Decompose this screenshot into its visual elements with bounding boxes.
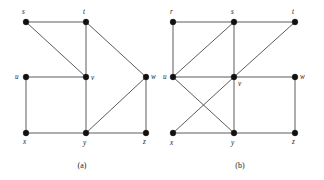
vertex-y xyxy=(231,130,237,136)
vertex-label-s: s xyxy=(231,8,234,16)
vertex-label-w: w xyxy=(151,73,156,81)
vertex-v xyxy=(83,74,89,80)
graph-a-vertices: stuvwxyz xyxy=(15,8,156,147)
vertex-u xyxy=(170,74,176,80)
graph-b: rstuvwxyz(b) xyxy=(163,8,305,170)
graph-a: stuvwxyz(a) xyxy=(15,8,156,170)
vertex-r xyxy=(170,19,176,25)
edge-s-v xyxy=(26,22,86,77)
vertex-t xyxy=(83,19,89,25)
vertex-y xyxy=(83,130,89,136)
vertex-label-x: x xyxy=(169,139,174,147)
vertex-label-u: u xyxy=(15,73,19,81)
vertex-w xyxy=(143,74,149,80)
vertex-x xyxy=(23,130,29,136)
vertex-label-x: x xyxy=(22,138,27,146)
vertex-label-y: y xyxy=(230,139,235,147)
figure-canvas: stuvwxyz(a)rstuvwxyz(b) xyxy=(0,0,324,180)
graph-a-caption: (a) xyxy=(78,161,87,170)
vertex-z xyxy=(292,130,298,136)
vertex-label-t: t xyxy=(292,8,295,16)
vertex-label-z: z xyxy=(142,138,146,146)
vertex-w xyxy=(292,74,298,80)
edge-t-v xyxy=(234,22,295,77)
vertex-s xyxy=(231,19,237,25)
vertex-v xyxy=(231,74,237,80)
vertex-label-y: y xyxy=(82,139,87,147)
edge-t-w xyxy=(86,22,146,77)
vertex-label-u: u xyxy=(163,73,167,81)
vertex-s xyxy=(23,19,29,25)
vertex-label-s: s xyxy=(22,8,25,16)
vertex-label-v: v xyxy=(91,74,95,82)
vertex-label-w: w xyxy=(300,73,305,81)
vertex-label-v: v xyxy=(238,80,242,88)
graph-b-caption: (b) xyxy=(235,161,245,170)
vertex-z xyxy=(143,130,149,136)
vertex-u xyxy=(23,74,29,80)
vertex-label-r: r xyxy=(170,8,173,16)
edge-s-u xyxy=(173,22,234,77)
vertex-label-t: t xyxy=(83,8,86,16)
graph-figure: stuvwxyz(a)rstuvwxyz(b) xyxy=(0,0,324,180)
vertex-label-z: z xyxy=(291,138,295,146)
vertex-x xyxy=(170,130,176,136)
edge-w-y xyxy=(86,77,146,133)
vertex-t xyxy=(292,19,298,25)
